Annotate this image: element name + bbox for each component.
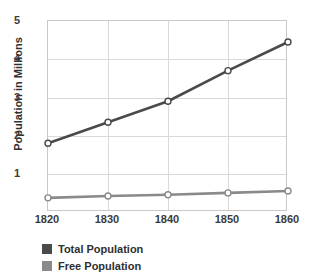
x-tick-1860: 1860 <box>259 214 312 225</box>
y-tick-5: 5 <box>0 15 20 26</box>
legend-item-total-population: Total Population <box>42 240 143 257</box>
legend-label-total-population: Total Population <box>58 243 143 255</box>
x-tick-1820: 1820 <box>19 214 75 225</box>
data-point-marker <box>285 39 291 45</box>
legend-swatch-total-population <box>42 244 52 254</box>
y-tick-1: 1 <box>0 168 20 179</box>
data-point-marker <box>105 119 111 125</box>
data-point-marker <box>105 193 111 199</box>
y-tick-3: 3 <box>0 92 20 103</box>
data-point-marker <box>225 68 231 74</box>
y-tick-2: 2 <box>0 130 20 141</box>
data-point-marker <box>45 140 51 146</box>
chart-screenshot: Population in Millions 5 4 3 2 1 1820 18… <box>0 0 312 280</box>
data-point-marker <box>165 192 171 198</box>
legend-item-free-population: Free Population <box>42 257 143 274</box>
chart-legend: Total Population Free Population <box>42 240 143 274</box>
legend-swatch-free-population <box>42 261 52 271</box>
x-tick-1850: 1850 <box>199 214 255 225</box>
data-point-marker <box>285 188 291 194</box>
data-point-marker <box>225 190 231 196</box>
series-line-total-population <box>48 42 288 143</box>
data-point-marker <box>165 98 171 104</box>
x-tick-1840: 1840 <box>139 214 195 225</box>
plot-area <box>47 20 287 211</box>
series-layer <box>48 21 288 212</box>
x-tick-1830: 1830 <box>79 214 135 225</box>
data-point-marker <box>45 195 51 201</box>
y-tick-4: 4 <box>0 53 20 64</box>
legend-label-free-population: Free Population <box>58 260 141 272</box>
